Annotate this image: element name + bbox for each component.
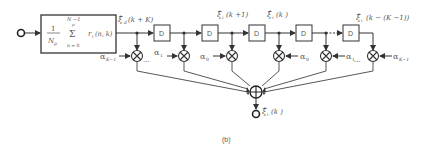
delay-block: D bbox=[202, 25, 218, 41]
input-terminal-icon bbox=[18, 30, 25, 37]
svg-text:Σ: Σ bbox=[69, 29, 75, 39]
svg-text:D: D bbox=[254, 30, 259, 37]
svg-text:0: 0 bbox=[306, 57, 309, 62]
svg-text:n = 0: n = 0 bbox=[67, 43, 80, 48]
svg-text:i: i bbox=[272, 15, 274, 20]
svg-text:p: p bbox=[54, 41, 57, 46]
svg-text:D: D bbox=[348, 30, 353, 37]
svg-text:(k + K): (k + K) bbox=[128, 16, 154, 24]
svg-text:0: 0 bbox=[206, 57, 209, 62]
delay-block: D bbox=[249, 25, 265, 41]
svg-text:D: D bbox=[159, 30, 164, 37]
svg-text:d: d bbox=[124, 20, 127, 25]
svg-text:i: i bbox=[361, 18, 363, 23]
svg-text:ξ̂: ξ̂ bbox=[118, 15, 123, 24]
svg-text:1: 1 bbox=[160, 53, 163, 58]
svg-text:1: 1 bbox=[51, 25, 55, 33]
svg-text:(k − (K −1)): (k − (K −1)) bbox=[366, 14, 410, 22]
averager-block: 1 N p N −1 p Σ n = 0 r i (n, k) bbox=[41, 15, 116, 53]
block-diagram-canvas: 1 N p N −1 p Σ n = 0 r i (n, k) ξ̂ d (k … bbox=[0, 0, 424, 151]
svg-text:(n, k): (n, k) bbox=[95, 30, 113, 38]
figure-caption: (b) bbox=[222, 136, 231, 144]
svg-text:i: i bbox=[222, 15, 224, 20]
delay-block: D bbox=[296, 25, 312, 41]
output-terminal-icon bbox=[253, 111, 260, 118]
svg-text:...: ... bbox=[354, 56, 361, 64]
svg-text:...: ... bbox=[143, 56, 150, 64]
svg-text:(k ): (k ) bbox=[276, 11, 288, 19]
svg-text:D: D bbox=[207, 30, 212, 37]
svg-text:K−1: K−1 bbox=[105, 57, 116, 62]
svg-text:(k +1): (k +1) bbox=[226, 11, 249, 19]
svg-text:(k ): (k ) bbox=[271, 108, 283, 116]
svg-text:D: D bbox=[301, 30, 306, 37]
delay-block: D bbox=[154, 25, 170, 41]
delay-block: D bbox=[343, 25, 359, 41]
fir-smoothing-diagram: 1 N p N −1 p Σ n = 0 r i (n, k) ξ̂ d (k … bbox=[0, 0, 424, 151]
summer-icon bbox=[246, 86, 266, 98]
svg-text:i: i bbox=[267, 112, 269, 117]
svg-text:p: p bbox=[72, 22, 75, 27]
svg-text:K−1: K−1 bbox=[398, 57, 409, 62]
